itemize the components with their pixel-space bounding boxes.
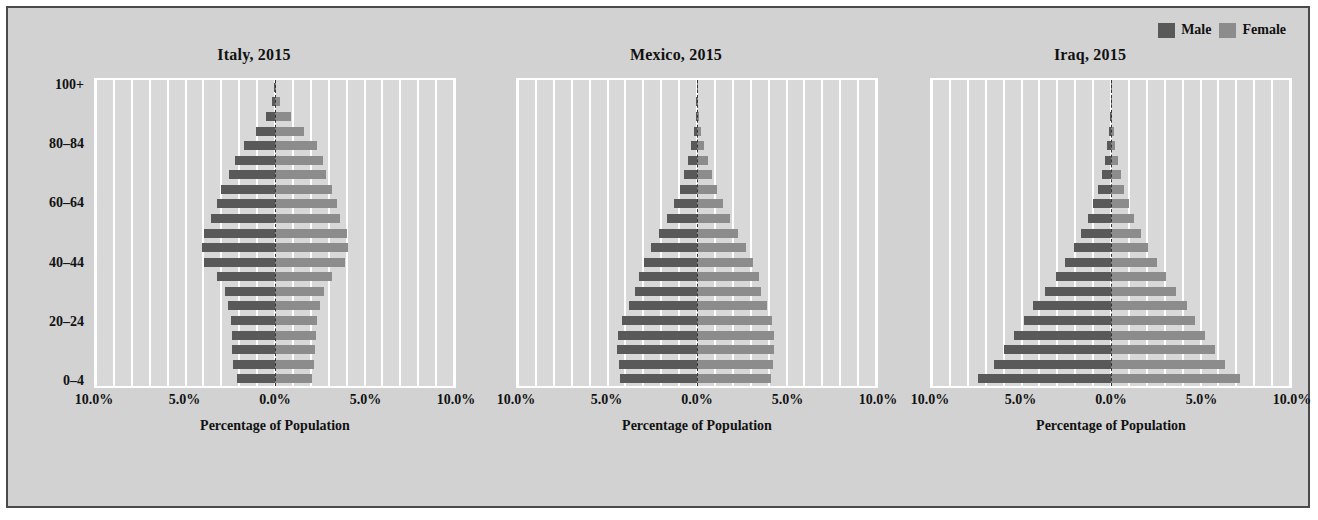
bar-female xyxy=(275,127,304,136)
x-axis-label: Percentage of Population xyxy=(516,418,878,434)
bar-male xyxy=(217,199,275,208)
bar-female xyxy=(275,199,337,208)
bar-male xyxy=(659,229,697,238)
panel-title: Iraq, 2015 xyxy=(870,46,1310,64)
x-axis: 10.0%5.0%0.0%5.0%10.0% xyxy=(516,392,878,414)
bar-male xyxy=(994,360,1111,369)
bar-female xyxy=(1111,243,1148,252)
bar-female xyxy=(697,258,753,267)
bar-female xyxy=(1111,301,1187,310)
bar-female xyxy=(1111,316,1195,325)
bar-female xyxy=(275,345,315,354)
panel-title: Mexico, 2015 xyxy=(456,46,896,64)
x-axis-tick: 10.0% xyxy=(911,392,950,408)
bar-male xyxy=(635,287,697,296)
bar-male xyxy=(1033,301,1111,310)
x-axis: 10.0%5.0%0.0%5.0%10.0% xyxy=(930,392,1292,414)
bar-female xyxy=(697,374,771,383)
bar-male xyxy=(1014,331,1111,340)
legend-item-male: Male xyxy=(1158,22,1211,38)
bar-male xyxy=(211,214,275,223)
bar-male xyxy=(617,345,697,354)
bar-male xyxy=(233,360,275,369)
bar-female xyxy=(1111,229,1141,238)
bar-female xyxy=(697,156,708,165)
bar-female xyxy=(275,360,314,369)
zero-centerline xyxy=(697,80,698,386)
bar-female xyxy=(697,360,773,369)
bar-male xyxy=(204,229,275,238)
bar-female xyxy=(275,156,323,165)
bar-female xyxy=(697,287,761,296)
bar-female xyxy=(1111,199,1129,208)
bar-female xyxy=(275,170,326,179)
zero-centerline xyxy=(275,80,276,386)
bar-male xyxy=(229,170,275,179)
bar-female xyxy=(275,316,317,325)
y-axis-tick: 20–24 xyxy=(49,314,84,330)
bar-female xyxy=(697,243,746,252)
bar-female xyxy=(1111,185,1124,194)
bar-female xyxy=(697,316,772,325)
panel-italy: Italy, 2015 100+80–8460–6440–4420–240–4 … xyxy=(34,46,474,486)
bar-male xyxy=(237,374,275,383)
x-axis-tick: 5.0% xyxy=(169,392,201,408)
bar-female xyxy=(275,287,324,296)
plot-area xyxy=(930,78,1292,388)
bar-male xyxy=(232,331,275,340)
bar-male xyxy=(684,170,697,179)
bar-male xyxy=(674,199,697,208)
bar-male xyxy=(1024,316,1111,325)
y-axis-tick: 80–84 xyxy=(49,136,84,152)
bar-female xyxy=(1111,214,1134,223)
x-axis-tick: 10.0% xyxy=(497,392,536,408)
x-axis-tick: 0.0% xyxy=(259,392,291,408)
y-axis-tick: 40–44 xyxy=(49,255,84,271)
plot-area xyxy=(516,78,878,388)
bar-male xyxy=(1065,258,1111,267)
bar-female xyxy=(1111,345,1215,354)
bar-female xyxy=(697,331,774,340)
y-axis xyxy=(870,78,926,388)
bar-female xyxy=(275,214,340,223)
bar-female xyxy=(697,199,723,208)
bar-female xyxy=(697,214,730,223)
bar-male xyxy=(266,112,275,121)
bar-female xyxy=(275,112,291,121)
bar-male xyxy=(688,156,697,165)
bar-male xyxy=(1004,345,1111,354)
bar-female xyxy=(697,345,774,354)
bar-male xyxy=(680,185,697,194)
zero-centerline xyxy=(1111,80,1112,386)
bar-female xyxy=(1111,258,1157,267)
x-axis-tick: 0.0% xyxy=(681,392,713,408)
bar-male xyxy=(202,243,275,252)
bar-male xyxy=(1045,287,1111,296)
bar-female xyxy=(697,170,712,179)
y-axis-tick: 100+ xyxy=(55,77,84,93)
bar-female xyxy=(275,229,347,238)
bar-male xyxy=(667,214,697,223)
legend-swatch-female xyxy=(1219,23,1236,38)
y-axis: 100+80–8460–6440–4420–240–4 xyxy=(34,78,90,388)
x-axis-tick: 5.0% xyxy=(1005,392,1037,408)
bar-male xyxy=(235,156,275,165)
bar-male xyxy=(225,287,275,296)
bar-male xyxy=(978,374,1111,383)
x-axis-label: Percentage of Population xyxy=(930,418,1292,434)
x-axis-tick: 0.0% xyxy=(1095,392,1127,408)
bar-male xyxy=(228,301,275,310)
bar-male xyxy=(256,127,275,136)
bar-female xyxy=(1111,360,1225,369)
bar-male xyxy=(1093,199,1111,208)
legend-label-female: Female xyxy=(1242,22,1286,38)
figure-container: Male Female Italy, 2015 100+80–8460–6440… xyxy=(6,6,1310,508)
x-axis-tick: 5.0% xyxy=(1186,392,1218,408)
bar-male xyxy=(639,272,697,281)
bar-male xyxy=(1098,185,1111,194)
bar-female xyxy=(275,301,320,310)
bar-female xyxy=(275,272,332,281)
panel-title: Italy, 2015 xyxy=(34,46,474,64)
x-axis: 10.0%5.0%0.0%5.0%10.0% xyxy=(94,392,456,414)
bar-female xyxy=(1111,170,1121,179)
